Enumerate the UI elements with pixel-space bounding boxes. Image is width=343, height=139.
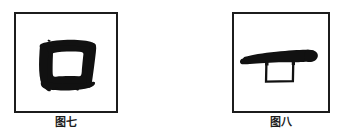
figure-caption-eight: 图八 <box>270 116 293 129</box>
figure-caption-seven: 图七 <box>55 116 78 129</box>
ancient-character-horizontal-stroke-with-box-icon <box>234 12 328 113</box>
figure-frame-seven <box>14 12 118 113</box>
figure-frame-eight <box>232 12 330 113</box>
glyph-container-seven <box>16 14 116 111</box>
glyph-container-eight <box>234 14 328 111</box>
ancient-character-kou-square-icon <box>16 12 116 113</box>
figure-panel-eight: 图八 <box>232 12 330 129</box>
figure-panel-seven: 图七 <box>14 12 118 129</box>
